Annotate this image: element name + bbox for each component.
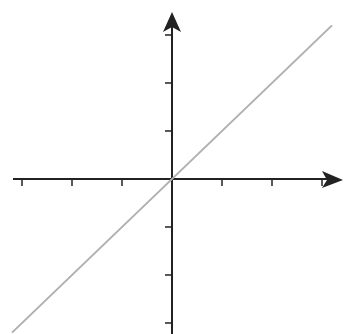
chart-canvas bbox=[0, 0, 347, 334]
